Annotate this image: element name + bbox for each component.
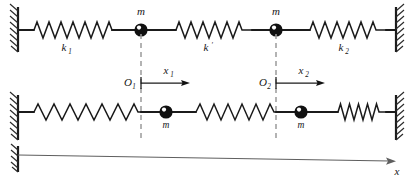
k2-subscript: 2 [345,48,349,56]
bottom-system: m m [10,92,404,140]
x1-label: x [163,64,169,76]
wall-hatching [396,92,404,140]
origin-2-subscript: 2 [267,83,271,91]
origin-1-label: O [124,76,132,88]
physics-diagram: m m k 1 k ′ k 2 O [0,0,414,181]
origin-2-label: O [259,76,267,88]
spring-k2-bottom [338,104,386,120]
wall-right-bottom [396,92,404,140]
axis-label: x [394,165,400,177]
wall-left-top [10,4,18,52]
mass-2-bottom [294,105,307,118]
spring-k2-label: k 2 [339,41,350,56]
top-system: m m k 1 k ′ k 2 [10,4,404,56]
wall-right-top [396,4,404,52]
x2-subscript: 2 [305,71,309,79]
diagram-canvas: m m k 1 k ′ k 2 O [0,0,414,181]
k1-symbol: k [62,41,68,53]
origin-1-group: O 1 x 1 [124,64,190,91]
wall-hatching [396,4,404,52]
x1-subscript: 1 [170,71,174,79]
spring-k1-bottom [34,104,148,120]
axis-line [18,155,390,161]
spring-k1-top [34,22,122,38]
mass-1-bottom-label: m [163,120,170,130]
mass-1-bottom [159,105,172,118]
kprime-symbol: k [204,41,210,53]
mass-2-top-label: m [272,5,280,17]
spring-k1-label: k 1 [62,41,72,56]
mass-1-top-label: m [137,5,145,17]
k2-symbol: k [339,41,345,53]
spring-kprime-top [176,22,252,38]
origin-1-subscript: 1 [132,83,136,91]
spring-kprime-label: k ′ [204,41,214,53]
mass-2-bottom-label: m [298,120,305,130]
spring-kprime-bottom [196,104,284,120]
wall-hatching [10,4,18,52]
x2-label: x [298,64,304,76]
origin-2-group: O 2 x 2 [259,64,325,91]
kprime-prime-mark: ′ [211,42,213,50]
k1-subscript: 1 [68,48,72,56]
wall-hatching [10,92,18,140]
spring-k2-top [310,22,386,38]
x-axis: x [11,144,400,177]
wall-left-bottom [10,92,18,140]
